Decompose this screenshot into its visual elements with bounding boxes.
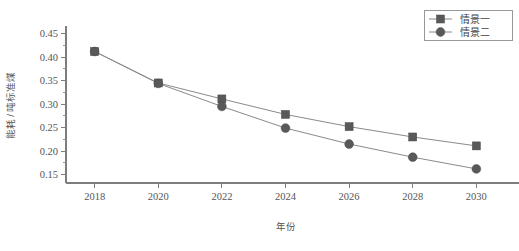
square-marker-icon xyxy=(282,110,290,118)
y-tick-label: 0.15 xyxy=(40,169,58,180)
legend-label: 情景二 xyxy=(460,26,490,38)
square-marker-icon xyxy=(472,142,480,150)
circle-marker-icon xyxy=(281,124,290,133)
y-axis-title: 能耗 / 吨标准煤 xyxy=(5,72,16,140)
square-marker-icon xyxy=(437,15,445,23)
circle-marker-icon xyxy=(90,47,99,56)
y-tick-label: 0.25 xyxy=(40,122,58,133)
y-tick-label: 0.45 xyxy=(40,28,58,39)
x-tick-label: 2022 xyxy=(211,191,232,202)
x-tick-label: 2028 xyxy=(402,191,423,202)
circle-marker-icon xyxy=(345,140,354,149)
x-axis-ticks: 2018202020222024202620282030 xyxy=(84,183,487,202)
legend-item[interactable]: 情景一 xyxy=(429,13,490,25)
chart-canvas: 0.150.200.250.300.350.400.45 20182020202… xyxy=(0,0,519,251)
circle-marker-icon xyxy=(408,153,417,162)
y-tick-label: 0.30 xyxy=(40,99,58,110)
data-series-group xyxy=(90,47,481,173)
square-marker-icon xyxy=(218,95,226,103)
circle-marker-icon xyxy=(472,165,481,174)
x-axis-title: 年份 xyxy=(276,221,296,232)
y-tick-label: 0.20 xyxy=(40,146,58,157)
chart-legend[interactable]: 情景一情景二 xyxy=(424,10,512,40)
x-tick-label: 2018 xyxy=(84,191,105,202)
x-tick-label: 2030 xyxy=(466,191,487,202)
square-marker-icon xyxy=(409,133,417,141)
circle-marker-icon xyxy=(436,28,445,37)
x-tick-label: 2026 xyxy=(339,191,360,202)
circle-marker-icon xyxy=(217,102,226,111)
x-tick-label: 2024 xyxy=(275,191,297,202)
square-marker-icon xyxy=(345,123,353,131)
circle-marker-icon xyxy=(154,79,163,88)
y-axis-ticks: 0.150.200.250.300.350.400.45 xyxy=(40,28,66,180)
legend-label: 情景一 xyxy=(460,13,490,25)
axis-spines xyxy=(66,26,519,183)
y-tick-label: 0.40 xyxy=(40,52,58,63)
energy-consumption-line-chart: 0.150.200.250.300.350.400.45 20182020202… xyxy=(0,0,519,251)
y-tick-label: 0.35 xyxy=(40,75,58,86)
x-tick-label: 2020 xyxy=(148,191,169,202)
